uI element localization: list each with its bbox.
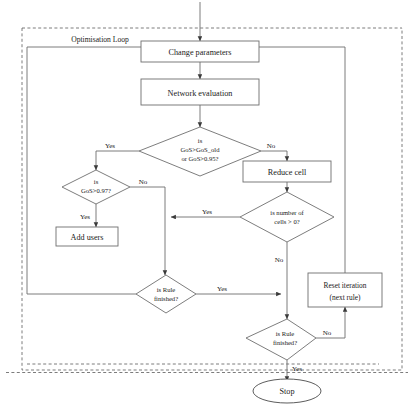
node-rule-finished-2-line1: is Rule	[276, 330, 295, 337]
node-cells-decision[interactable]	[240, 192, 334, 242]
node-rule-finished-2-line2: finished?	[273, 339, 297, 346]
edge-label-no-rule2: No	[323, 329, 332, 337]
node-gos97-line1: is	[94, 178, 99, 185]
node-cells-line1: is number of	[270, 209, 304, 216]
node-reduce-cell-label: Reduce cell	[268, 168, 307, 177]
node-network-evaluation-label: Network evaluation	[168, 89, 233, 98]
edge-label-yes-gos97: Yes	[80, 213, 90, 221]
node-gos-decision-line2: GoS>GoS_old	[181, 146, 221, 153]
node-reset-iteration-line1: Reset iteration	[324, 281, 367, 290]
edge-gos-yes-to-gos97	[96, 151, 139, 170]
flowchart-canvas: Change parameters Network evaluation is …	[0, 0, 413, 410]
node-rule-finished-1-line2: finished?	[154, 295, 178, 302]
edge-gos-no-to-reduce-cell	[261, 151, 287, 161]
label-optimisation-loop: Optimisation Loop	[71, 35, 129, 44]
edge-label-yes-gos: Yes	[105, 142, 115, 150]
node-reset-iteration-line2: (next rule)	[330, 293, 362, 302]
node-stop-label: Stop	[279, 387, 294, 396]
node-gos-decision-line3: or GoS>0.95?	[181, 155, 218, 162]
flowchart-svg: Change parameters Network evaluation is …	[0, 0, 413, 410]
node-gos97-line2: GoS>0.97?	[81, 187, 111, 194]
edge-label-no-gos: No	[267, 142, 276, 150]
node-cells-line2: cells > 0?	[274, 218, 299, 225]
node-gos-decision-line1: is	[198, 137, 203, 144]
edge-gos97-no-down	[130, 187, 165, 275]
node-rule-finished-1-line1: is Rule	[157, 286, 176, 293]
edge-label-yes-rule1: Yes	[217, 285, 227, 293]
edge-label-no-gos97: No	[139, 178, 148, 186]
edge-label-no-cells: No	[275, 256, 284, 264]
node-add-users-label: Add users	[71, 233, 104, 242]
edge-label-yes-cells: Yes	[202, 208, 212, 216]
edge-label-yes-rule2: Yes	[292, 365, 302, 373]
node-rule-finished-1[interactable]	[136, 275, 196, 313]
node-change-parameters-label: Change parameters	[169, 48, 232, 57]
